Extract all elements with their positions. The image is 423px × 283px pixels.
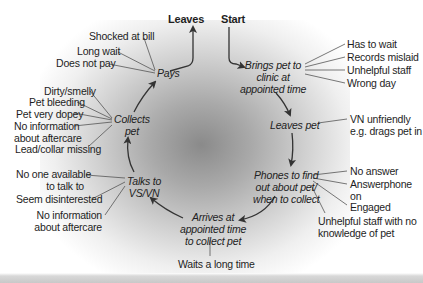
journey-diagram: Start Leaves Brings pet to clinic at app… <box>0 0 423 283</box>
issue-vn-unfriendly: VN unfriendly e.g. drags pet in <box>350 113 422 137</box>
stage-pays: Pays <box>157 67 180 79</box>
issue-lead-collar-missing: Lead/collar missing <box>15 143 101 155</box>
arrow-collects-to-pays <box>134 82 155 112</box>
issue-does-not-pay: Does not pay <box>56 57 115 69</box>
arrow-leaves-to-phones <box>291 133 293 165</box>
issue-answerphone: Answerphone on <box>350 178 412 202</box>
issue-no-answer: No answer <box>350 165 398 177</box>
stage-brings-pet: Brings pet to clinic at appointed time <box>240 59 306 95</box>
stage-phones: Phones to find out about pet/ when to co… <box>253 169 319 205</box>
issue-engaged: Engaged <box>350 201 391 213</box>
issue-pet-very-dopey: Pet very dopey <box>16 108 83 120</box>
issue-long-wait: Long wait <box>77 45 120 57</box>
issue-no-one-available: No one available to talk to <box>16 168 84 192</box>
issue-has-to-wait: Has to wait <box>347 38 397 50</box>
issue-unhelpful-staff: Unhelpful staff <box>347 64 411 76</box>
stage-talks: Talks to VS/VN <box>127 175 161 199</box>
issue-pet-bleeding: Pet bleeding <box>29 96 85 108</box>
issue-waits-long-time: Waits a long time <box>178 258 255 270</box>
issue-seem-disinterested: Seem disinterested <box>16 193 102 205</box>
start-label: Start <box>221 13 245 25</box>
issue-wrong-day: Wrong day <box>347 77 396 89</box>
page-bottom-edge <box>0 273 423 283</box>
issue-shocked-at-bill: Shocked at bill <box>89 30 154 42</box>
issue-unhelpful-staff-knowledge: Unhelpful staff with no knowledge of pet <box>318 215 417 239</box>
issue-records-mislaid: Records mislaid <box>347 51 419 63</box>
issue-collects-no-aftercare-info: No information about aftercare <box>14 120 72 144</box>
arrow-brings-to-leaves <box>276 93 290 115</box>
end-label: Leaves <box>168 13 204 25</box>
arrow-pays-to-leaves <box>170 27 193 71</box>
arrow-talks-to-collects <box>128 138 134 172</box>
stage-leaves-pet: Leaves pet <box>270 119 319 131</box>
issue-talks-no-aftercare-info: No information about aftercare <box>30 209 102 233</box>
stage-collects: Collects pet <box>114 113 150 137</box>
arrow-arrives-to-talks <box>151 198 183 218</box>
stage-arrives: Arrives at appointed time to collect pet <box>180 211 246 247</box>
